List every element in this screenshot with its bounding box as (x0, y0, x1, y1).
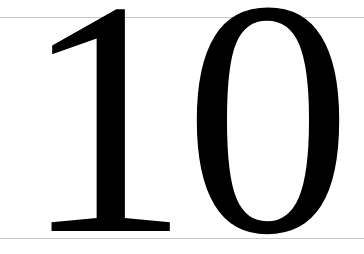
bottom-guide-line (0, 238, 364, 239)
large-numeral: 10 (22, 0, 346, 254)
